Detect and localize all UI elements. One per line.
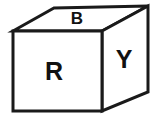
cube-figure: B R Y — [0, 0, 157, 120]
front-face-label: R — [45, 57, 63, 85]
top-face-label: B — [71, 9, 83, 28]
right-face-label: Y — [116, 45, 133, 73]
cube-diagram-canvas: B R Y — [0, 0, 157, 120]
